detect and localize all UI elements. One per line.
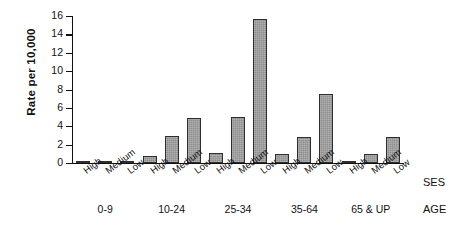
bar <box>253 19 267 163</box>
y-axis-tick-label: 8 <box>57 83 63 96</box>
age-group-labels: 0-910-2425-3435-6465 & UP <box>72 203 404 219</box>
age-group-label: 0-9 <box>98 203 113 215</box>
ses-tick-labels: HighMediumLowHighMediumLowHighMediumLowH… <box>72 167 404 201</box>
plot-area: 0246810121416 <box>72 16 404 163</box>
y-axis-tick-label: 14 <box>51 27 63 40</box>
bars-container <box>72 16 404 163</box>
age-group-label: 65 & UP <box>351 203 390 215</box>
y-axis-tick: 0 <box>66 163 72 164</box>
y-axis-tick-label: 6 <box>57 101 63 114</box>
age-axis-name: AGE <box>423 203 446 215</box>
y-axis-tick-label: 4 <box>57 119 63 132</box>
y-axis-tick-label: 10 <box>51 64 63 77</box>
ses-axis-name: SES <box>423 176 445 188</box>
bar-chart: Rate per 10,000 0246810121416 HighMedium… <box>0 0 475 231</box>
age-group-label: 35-64 <box>291 203 318 215</box>
y-axis-title: Rate per 10,000 <box>25 0 37 147</box>
bar <box>231 117 245 163</box>
y-axis-tick-label: 2 <box>57 138 63 151</box>
age-group-label: 25-34 <box>225 203 252 215</box>
age-group-label: 10-24 <box>158 203 185 215</box>
y-axis-tick-label: 0 <box>57 156 63 169</box>
y-axis-tick-label: 12 <box>51 46 63 59</box>
y-axis-tick-label: 16 <box>51 9 63 22</box>
